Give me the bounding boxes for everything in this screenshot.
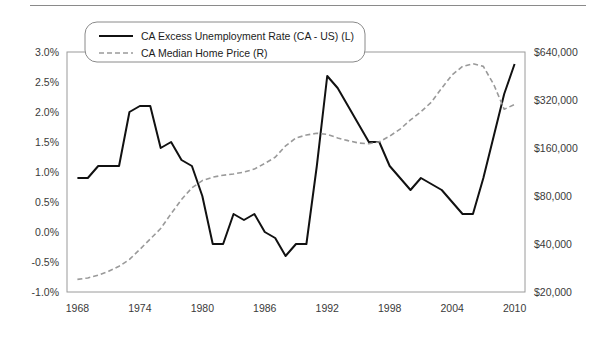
- x-axis-tick-label: 2004: [440, 302, 464, 314]
- left-axis-tick-label: 2.0%: [35, 106, 59, 118]
- x-axis-tick-label: 1992: [316, 302, 340, 314]
- legend-entry-label: CA Excess Unemployment Rate (CA - US) (L…: [141, 30, 354, 42]
- left-axis-tick-label: 0.0%: [35, 226, 59, 238]
- left-axis-tick-label: -1.0%: [32, 286, 59, 298]
- chart-figure: -1.0%-0.5%0.0%0.5%1.0%1.5%2.0%2.5%3.0%$2…: [0, 0, 610, 338]
- x-axis-tick-label: 1968: [66, 302, 90, 314]
- x-axis-tick-label: 1974: [128, 302, 152, 314]
- left-axis-tick-label: 1.0%: [35, 166, 59, 178]
- right-axis-tick-label: $160,000: [534, 142, 578, 154]
- right-axis-tick-label: $320,000: [534, 94, 578, 106]
- right-axis-tick-label: $40,000: [534, 238, 572, 250]
- left-axis-tick-label: 3.0%: [35, 46, 59, 58]
- left-axis-tick-label: 1.5%: [35, 136, 59, 148]
- header-divider: [30, 5, 586, 6]
- left-axis-tick-label: 0.5%: [35, 196, 59, 208]
- right-axis-tick-label: $80,000: [534, 190, 572, 202]
- chart-legend: CA Excess Unemployment Rate (CA - US) (L…: [85, 22, 365, 62]
- unemployment-series-line: [77, 64, 514, 256]
- right-axis-tick-label: $640,000: [534, 46, 578, 58]
- line-chart: -1.0%-0.5%0.0%0.5%1.0%1.5%2.0%2.5%3.0%$2…: [0, 0, 610, 338]
- x-axis-tick-label: 1998: [378, 302, 402, 314]
- left-axis-tick-label: -0.5%: [32, 256, 59, 268]
- x-axis-tick-label: 2010: [503, 302, 527, 314]
- x-axis-tick-label: 1986: [253, 302, 277, 314]
- plot-area-border: [67, 52, 525, 292]
- right-axis-tick-label: $20,000: [534, 286, 572, 298]
- x-axis-tick-label: 1980: [191, 302, 215, 314]
- left-axis-tick-label: 2.5%: [35, 76, 59, 88]
- legend-entry-label: CA Median Home Price (R): [141, 47, 268, 59]
- home-price-series-line: [77, 64, 514, 280]
